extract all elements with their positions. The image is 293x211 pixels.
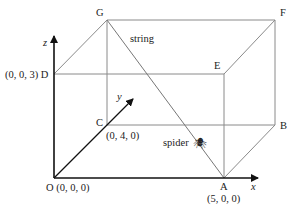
spider-label: spider xyxy=(163,137,189,148)
vertex-label-A: A xyxy=(220,181,228,192)
axis-label-x: x xyxy=(250,181,256,192)
axis-label-y: y xyxy=(116,91,122,102)
vertex-label-O: O (0, 0, 0) xyxy=(46,182,90,194)
axis-label-z: z xyxy=(42,37,47,48)
vertex-label-B: B xyxy=(280,120,287,131)
edge-AB xyxy=(224,125,275,178)
edge-DG xyxy=(54,20,107,74)
vertex-coords-A: (5, 0, 0) xyxy=(207,193,241,205)
vertex-label-D: (0, 0, 3) D xyxy=(5,69,49,81)
vertex-label-F: F xyxy=(280,7,286,18)
spider-icon: 🕷 xyxy=(193,137,207,149)
vertex-label-C: C xyxy=(96,117,103,128)
string-label: string xyxy=(130,33,155,44)
cuboid-diagram: G F E (0, 0, 3) D C (0, 4, 0) B A (5, 0,… xyxy=(0,0,293,211)
string-line xyxy=(107,20,224,178)
vertex-label-G: G xyxy=(96,7,104,18)
edge-EF xyxy=(224,20,275,74)
vertex-label-E: E xyxy=(214,60,220,71)
vertex-coords-C: (0, 4, 0) xyxy=(106,130,140,142)
